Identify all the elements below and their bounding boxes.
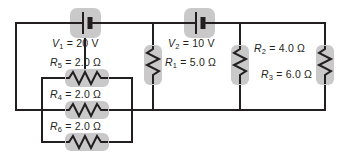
label-r1-symbol: R (165, 56, 173, 68)
label-r3-value: 6.0 (286, 68, 301, 80)
label-v1: V1 = 20 V (52, 38, 99, 49)
label-r6-value: 2.0 (75, 120, 90, 132)
label-r3-unit: Ω (304, 68, 312, 80)
label-r1: R1 = 5.0 Ω (165, 57, 216, 68)
label-r4-subscript: 4 (58, 93, 62, 102)
label-r5-equals: = (65, 56, 71, 68)
label-r1-value: 5.0 (190, 56, 205, 68)
label-r3-equals: = (276, 68, 282, 80)
resistor-r5-symbol (65, 69, 109, 87)
label-r2-symbol: R (254, 42, 262, 54)
label-v2-unit: V (207, 37, 214, 49)
label-v2: V2 = 10 V (168, 38, 215, 49)
label-r5: R5 = 2.0 Ω (50, 57, 101, 68)
resistor-r1-symbol (144, 45, 162, 85)
label-r4: R4 = 2.0 Ω (50, 89, 101, 100)
battery-v1-symbol (70, 8, 101, 38)
label-r1-equals: = (180, 56, 186, 68)
label-r2-subscript: 2 (262, 47, 266, 56)
label-v2-equals: = (183, 37, 189, 49)
label-r6-unit: Ω (93, 120, 101, 132)
label-r4-value: 2.0 (75, 88, 90, 100)
label-r6-symbol: R (50, 120, 58, 132)
label-v1-equals: = (67, 37, 73, 49)
label-r5-subscript: 5 (58, 61, 62, 70)
resistor-r4-symbol (65, 101, 109, 119)
label-v1-subscript: 1 (59, 42, 63, 51)
resistor-r6-symbol (65, 133, 109, 151)
label-v2-value: 10 (192, 37, 204, 49)
label-r5-unit: Ω (93, 56, 101, 68)
label-r2: R2 = 4.0 Ω (254, 43, 305, 54)
label-r1-subscript: 1 (173, 61, 177, 70)
label-r2-value: 4.0 (279, 42, 294, 54)
label-r5-value: 2.0 (75, 56, 90, 68)
label-r4-unit: Ω (93, 88, 101, 100)
resistor-r3-symbol (316, 45, 334, 85)
label-r4-equals: = (65, 88, 71, 100)
label-r3-symbol: R (261, 68, 269, 80)
battery-v2-symbol (184, 8, 215, 38)
label-r5-symbol: R (50, 56, 58, 68)
label-r2-unit: Ω (297, 42, 305, 54)
label-r4-symbol: R (50, 88, 58, 100)
label-r3: R3 = 6.0 Ω (261, 69, 312, 80)
label-v1-unit: V (91, 37, 98, 49)
label-v1-value: 20 (76, 37, 88, 49)
resistor-r2-symbol (231, 45, 249, 85)
circuit-diagram: V1 = 20 V R5 = 2.0 Ω R4 = 2.0 Ω R6 = 2.0… (0, 0, 340, 157)
label-r3-subscript: 3 (269, 73, 273, 82)
label-r6-equals: = (65, 120, 71, 132)
label-r2-equals: = (269, 42, 275, 54)
label-r1-unit: Ω (208, 56, 216, 68)
label-r6: R6 = 2.0 Ω (50, 121, 101, 132)
label-v2-subscript: 2 (175, 42, 179, 51)
label-r6-subscript: 6 (58, 125, 62, 134)
